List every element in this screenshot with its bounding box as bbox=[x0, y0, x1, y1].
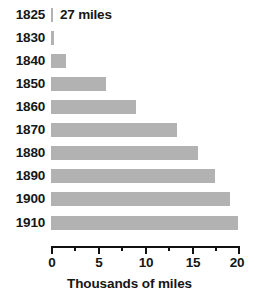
bar bbox=[51, 100, 136, 114]
bar-row: 1825 27 miles bbox=[0, 4, 259, 26]
category-label: 1825 bbox=[0, 4, 45, 26]
bar-row: 1870 bbox=[0, 119, 259, 141]
category-label: 1890 bbox=[0, 165, 45, 187]
bar bbox=[51, 123, 177, 137]
bar-track bbox=[51, 212, 259, 234]
bar-track bbox=[51, 27, 259, 49]
x-axis: 0 5 10 15 20 Thousands of miles bbox=[0, 246, 259, 295]
bar-row: 1860 bbox=[0, 96, 259, 118]
bar bbox=[51, 192, 230, 206]
category-label: 1900 bbox=[0, 188, 45, 210]
bar-track: 27 miles bbox=[51, 4, 259, 26]
bar-track bbox=[51, 96, 259, 118]
bar-track bbox=[51, 50, 259, 72]
axis-tick-label: 15 bbox=[186, 255, 201, 270]
axis-tick-label: 20 bbox=[230, 255, 245, 270]
axis-tick bbox=[215, 246, 217, 251]
bar bbox=[51, 8, 53, 22]
bar-track bbox=[51, 165, 259, 187]
bar-annotation: 27 miles bbox=[60, 4, 112, 26]
bar-row: 1850 bbox=[0, 73, 259, 95]
bar-row: 1830 bbox=[0, 27, 259, 49]
bar-track bbox=[51, 188, 259, 210]
bar-chart: 1825 27 miles 1830 1840 1850 186 bbox=[0, 0, 259, 295]
axis-tick bbox=[192, 246, 194, 254]
axis-tick bbox=[121, 246, 123, 251]
axis-tick bbox=[168, 246, 170, 251]
x-axis-title: Thousands of miles bbox=[0, 276, 259, 291]
bar bbox=[51, 31, 54, 45]
axis-tick bbox=[145, 246, 147, 254]
axis-tick bbox=[74, 246, 76, 251]
category-label: 1880 bbox=[0, 142, 45, 164]
bar-row: 1840 bbox=[0, 50, 259, 72]
category-label: 1830 bbox=[0, 27, 45, 49]
axis-tick-label: 5 bbox=[95, 255, 102, 270]
axis-tick bbox=[51, 246, 53, 254]
bar bbox=[51, 77, 106, 91]
bar-track bbox=[51, 142, 259, 164]
category-label: 1850 bbox=[0, 73, 45, 95]
bar-track bbox=[51, 119, 259, 141]
axis-tick bbox=[238, 246, 240, 254]
category-label: 1910 bbox=[0, 212, 45, 234]
category-label: 1860 bbox=[0, 96, 45, 118]
category-label: 1840 bbox=[0, 50, 45, 72]
bar-row: 1900 bbox=[0, 188, 259, 210]
bar-row: 1890 bbox=[0, 165, 259, 187]
axis-tick bbox=[98, 246, 100, 254]
bar bbox=[51, 169, 215, 183]
bar bbox=[51, 216, 238, 230]
axis-tick-label: 0 bbox=[48, 255, 55, 270]
plot-area: 1825 27 miles 1830 1840 1850 186 bbox=[0, 0, 259, 242]
bar-row: 1880 bbox=[0, 142, 259, 164]
bar bbox=[51, 146, 198, 160]
bar bbox=[51, 54, 66, 68]
category-label: 1870 bbox=[0, 119, 45, 141]
axis-tick-label: 10 bbox=[139, 255, 154, 270]
bar-track bbox=[51, 73, 259, 95]
bar-row: 1910 bbox=[0, 212, 259, 234]
